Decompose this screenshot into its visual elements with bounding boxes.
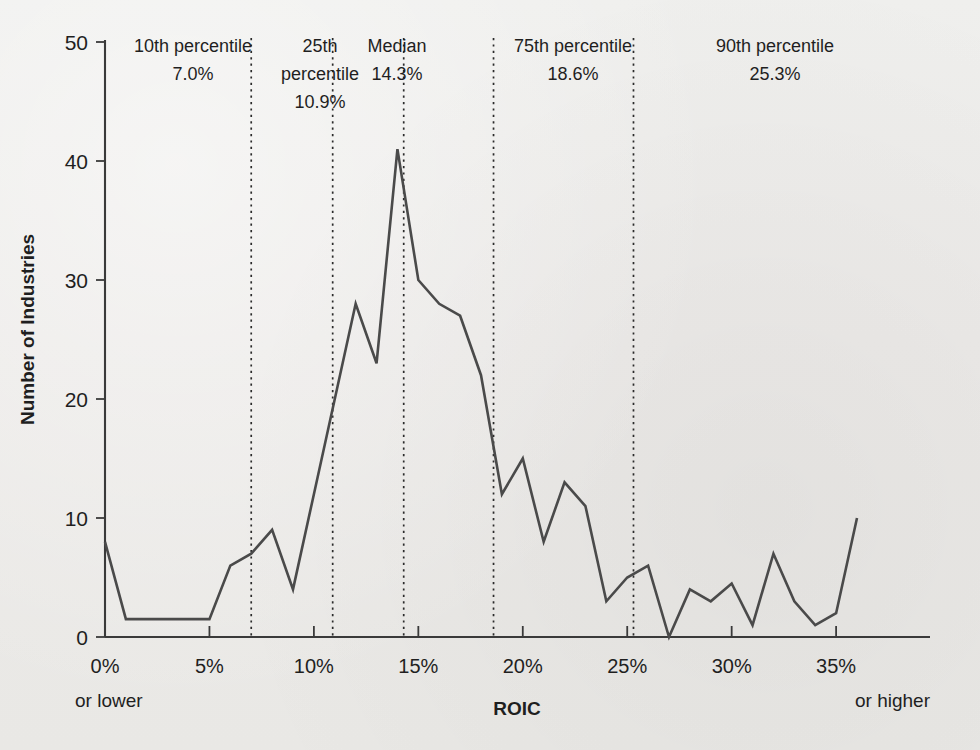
- roic-histogram-chart: 01020304050 0%5%10%15%20%25%30%35% Numbe…: [0, 0, 980, 750]
- x-tick-label: 10%: [294, 655, 334, 677]
- annotation-block-2: 25thpercentile10.9%: [281, 36, 359, 112]
- x-tick-label: 15%: [398, 655, 438, 677]
- annotation-line: 25th: [302, 36, 337, 56]
- annotation-line: 14.3%: [371, 64, 422, 84]
- x-axis-left-note: or lower: [75, 690, 143, 711]
- x-tick-label: 35%: [816, 655, 856, 677]
- y-tick-label: 40: [65, 150, 88, 173]
- annotation-line: 10.9%: [294, 92, 345, 112]
- annotation-line: 18.6%: [547, 64, 598, 84]
- x-tick-label: 20%: [503, 655, 543, 677]
- annotation-line: 25.3%: [749, 64, 800, 84]
- percentile-annotations: 10th percentile7.0%25thpercentile10.9%Me…: [134, 36, 834, 112]
- annotation-line: 7.0%: [172, 64, 213, 84]
- x-axis-tick-labels: 0%5%10%15%20%25%30%35%: [91, 655, 857, 677]
- x-axis-right-note: or higher: [855, 690, 931, 711]
- y-tick-label: 0: [76, 626, 88, 649]
- data-series-line: [105, 149, 857, 637]
- annotation-block-3: Median14.3%: [367, 36, 426, 84]
- annotation-block-4: 75th percentile18.6%: [514, 36, 632, 84]
- annotation-line: 90th percentile: [716, 36, 834, 56]
- annotation-line: Median: [367, 36, 426, 56]
- percentile-marker-lines: [251, 38, 633, 637]
- annotation-line: 10th percentile: [134, 36, 252, 56]
- x-tick-label: 5%: [195, 655, 224, 677]
- x-axis-title: ROIC: [493, 698, 541, 719]
- y-axis-ticks: [96, 42, 105, 637]
- y-tick-label: 10: [65, 507, 88, 530]
- x-tick-label: 25%: [607, 655, 647, 677]
- annotation-block-5: 90th percentile25.3%: [716, 36, 834, 84]
- y-axis-tick-labels: 01020304050: [65, 31, 88, 649]
- y-axis-title: Number of Industries: [17, 234, 38, 425]
- annotation-block-1: 10th percentile7.0%: [134, 36, 252, 84]
- y-tick-label: 20: [65, 388, 88, 411]
- y-tick-label: 50: [65, 31, 88, 54]
- y-tick-label: 30: [65, 269, 88, 292]
- annotation-line: percentile: [281, 64, 359, 84]
- annotation-line: 75th percentile: [514, 36, 632, 56]
- chart-container: 01020304050 0%5%10%15%20%25%30%35% Numbe…: [0, 0, 980, 750]
- x-axis-ticks: [105, 626, 836, 637]
- x-tick-label: 0%: [91, 655, 120, 677]
- x-tick-label: 30%: [712, 655, 752, 677]
